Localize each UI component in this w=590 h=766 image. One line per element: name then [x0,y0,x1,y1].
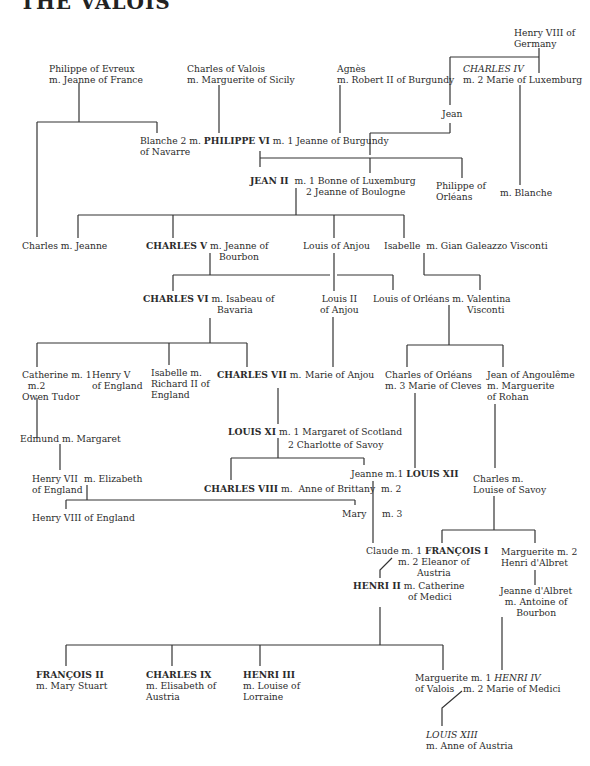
node-name: Marguerite m. 1 [415,672,494,683]
node-name-line2: of Navarre [140,146,190,157]
king-name: JEAN II [250,175,289,186]
king-name: CHARLES IV [463,63,524,74]
node-spouse-line2: Austria [417,567,451,578]
node-spouse-line2: Lorraine [243,691,283,702]
node-charles-of-valois: Charles of Valois m. Marguerite of Sicil… [187,63,295,85]
node-spouse: m. Jeanne of France [49,74,143,85]
node-name-line2: of Anjou [320,304,359,315]
node-henry-v: Henry V of England [92,369,143,391]
node-louis-of-anjou: Louis of Anjou [303,240,370,251]
node-spouse: Henri d'Albret [501,557,568,568]
node-henri-iii: HENRI III m. Louise of Lorraine [243,669,300,702]
node-spouse: m. [290,369,302,380]
node-spouse: m. Robert II of Burgundy [337,74,454,85]
node-henri-ii-spouse-line2: of Medici [408,591,452,602]
node-louis-xii-m3: m. 3 [382,508,402,519]
node-name: Valentina [467,293,511,304]
node-charles-v: CHARLES V m. Jeanne of [146,240,268,251]
node-philippe-of-orleans: Philippe of Orléans [436,180,486,202]
node-name-line2: Visconti [467,304,504,315]
king-name: CHARLES VII [217,369,287,380]
node-spouse: m. Mary Stuart [36,680,107,691]
node-charles-louise: Charles m. Louise of Savoy [473,473,546,495]
node-spouse: m. 2 Marie of Luxemburg [463,74,582,85]
node-francois-ii: FRANÇOIS II m. Mary Stuart [36,669,107,691]
node-charles-viii: CHARLES VIII m. Anne of Brittany [204,483,375,494]
node-isabelle-visconti: Isabelle m. Gian Galeazzo Visconti [384,240,548,251]
node-philippe-of-evreux: Philippe of Evreux m. Jeanne of France [49,63,143,85]
node-spouse: m. Catherine [404,580,465,591]
node-spouse: Claude m. 1 [366,545,425,556]
node-name: Catherine m. 1 [22,369,92,380]
node-name: Philippe of [436,180,486,191]
node-name: Charles of Orléans [385,369,472,380]
node-spouse: m. 1 Margaret of Scotland [279,426,402,437]
node-spouse: Jeanne m.1 [351,468,406,479]
node-m-blanche: m. Blanche [500,187,552,198]
node-charles-iv: CHARLES IV m. 2 Marie of Luxemburg [463,63,582,85]
node-spouse: Owen Tudor [22,391,80,402]
node-blanche: Blanche 2 m. PHILIPPE VI m. 1 Jeanne of … [140,135,389,157]
king-name: LOUIS XI [228,426,276,437]
king-name: CHARLES VI [143,293,208,304]
node-catherine: Catherine m. 1 m.2 Owen Tudor [22,369,92,402]
node-spouse: m. 1 Jeanne of Burgundy [273,135,389,146]
node-name: Charles of Valois [187,63,265,74]
king-name: PHILIPPE VI [204,135,270,146]
node-name-line2: Orléans [436,191,472,202]
node-spouse: m. Elisabeth of [146,680,216,691]
king-name: CHARLES IX [146,669,211,680]
node-name: Jeanne d'Albret [500,585,572,596]
node-spouse: m. Isabeau of [211,293,274,304]
node-name: Jean of Angoulême [487,369,575,380]
node-spouse-marker: m.2 [28,380,45,391]
node-francois-i-spouse2: m. 2 Eleanor of Austria [398,556,470,578]
node-louis-xi-spouse2: 2 Charlotte of Savoy [288,439,383,450]
node-marguerite-albret: Marguerite m. 2 Henri d'Albret [501,546,577,568]
node-spouse-line2: of Rohan [487,391,529,402]
node-name: Agnès [337,63,366,74]
node-spouse: of Valois m. 2 Marie of Medici [415,683,561,694]
node-louis-of-orleans: Louis of Orléans m. [373,293,464,304]
node-spouse-line2: Bourbon [516,607,556,618]
node-henry-viii-of-england: Henry VIII of England [32,512,135,523]
node-spouse: m. Marguerite [487,380,555,391]
king-name: HENRI II [353,580,401,591]
node-name: Henry VIII of [514,27,575,38]
node-spouse: m. Jeanne of [210,240,268,251]
node-mary: Mary [342,508,366,519]
node-spouse: m. Anne of Austria [426,740,513,751]
king-name: LOUIS XIII [426,729,478,740]
king-name: HENRI IV [494,672,541,683]
node-jeanne-albret: Jeanne d'Albret m. Antoine of Bourbon [500,585,572,618]
node-m-elizabeth: m. Elizabeth [84,473,142,484]
king-name: HENRI III [243,669,295,680]
node-spouse: m. 3 Marie of Cleves [385,380,482,391]
node-spouse: m. 1 Bonne of Luxemburg [295,175,416,186]
node-spouse: Richard II of [151,378,210,389]
node-agnes: Agnès m. Robert II of Burgundy [337,63,454,85]
king-name: FRANÇOIS I [425,545,488,556]
node-jean-of-angouleme: Jean of Angoulême m. Marguerite of Rohan [487,369,575,402]
node-marie-of-anjou: Marie of Anjou [305,369,374,380]
node-name: Blanche 2 m. [140,135,201,146]
node-name: Charles m. [473,473,523,484]
node-name: Philippe of Evreux [49,63,135,74]
node-valentina-visconti: Valentina Visconti [467,293,511,315]
node-spouse: m. Anne of Brittany [281,483,375,494]
node-louis-ii-of-anjou: Louis II of Anjou [320,293,359,315]
node-jean-ii: JEAN II m. 1 Bonne of Luxemburg [250,175,416,186]
node-name: Marguerite m. 2 [501,546,577,557]
king-name: CHARLES V [146,240,207,251]
node-name: Henry V [92,369,131,380]
node-spouse: m. Louise of [243,680,300,691]
node-louis-xiii: LOUIS XIII m. Anne of Austria [426,729,513,751]
king-name: FRANÇOIS II [36,669,104,680]
node-louis-xii-m2: m. 2 [381,483,401,494]
node-charles-vi-spouse-line2: Bavaria [217,304,253,315]
node-name: Louis II [322,293,357,304]
node-charles-ix: CHARLES IX m. Elisabeth of Austria [146,669,216,702]
node-louis-xi: LOUIS XI m. 1 Margaret of Scotland [228,426,402,437]
node-charles-vi: CHARLES VI m. Isabeau of [143,293,274,304]
node-spouse: m. Marguerite of Sicily [187,74,295,85]
